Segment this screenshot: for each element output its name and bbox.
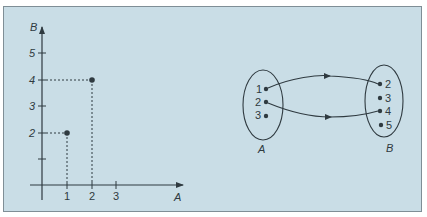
arrow-2-to-4 (268, 103, 378, 117)
set-a-dot-3 (264, 114, 268, 118)
x-tick-label-2: 2 (89, 190, 95, 202)
set-a-dot-2 (264, 100, 268, 104)
set-b-dot-4 (378, 109, 382, 113)
arrowhead-1-to-2 (324, 73, 331, 79)
set-a-element-3: 3 (255, 109, 261, 121)
x-tick-label-1: 1 (64, 190, 70, 202)
set-b-ellipse (365, 65, 403, 137)
point-1-2 (64, 130, 70, 136)
set-a-ellipse (243, 70, 283, 140)
figure-canvas: B A 1 2 3 2 3 4 5 A 1 2 (0, 0, 427, 217)
set-a-label: A (257, 143, 265, 155)
set-b-dot-2 (378, 82, 382, 86)
set-a-dot-1 (264, 87, 268, 91)
coordinate-graph: B A 1 2 3 2 3 4 5 (28, 21, 183, 203)
y-tick-label-3: 3 (29, 100, 36, 112)
mapping-diagram: A 1 2 3 B 2 3 4 5 (243, 65, 403, 155)
y-axis-label: B (30, 21, 37, 33)
set-b-label: B (386, 142, 393, 154)
set-b-element-5: 5 (386, 119, 392, 131)
set-b-element-2: 2 (385, 78, 391, 90)
set-a-element-1: 1 (256, 83, 262, 95)
arrow-1-to-2 (268, 76, 378, 89)
set-a-element-2: 2 (255, 96, 261, 108)
y-tick-label-4: 4 (29, 74, 35, 86)
x-tick-label-3: 3 (113, 190, 119, 202)
arrowhead-2-to-4 (325, 114, 332, 120)
y-tick-label-2: 2 (28, 127, 35, 139)
set-b-dot-3 (378, 96, 382, 100)
set-b-element-4: 4 (385, 105, 391, 117)
point-2-4 (89, 77, 95, 83)
set-b-dot-5 (379, 123, 383, 127)
y-tick-label-5: 5 (29, 47, 36, 59)
set-b-element-3: 3 (385, 92, 391, 104)
x-axis-label: A (173, 191, 181, 203)
